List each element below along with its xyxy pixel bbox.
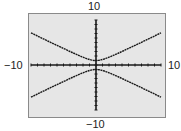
calculator-screen bbox=[0, 0, 181, 131]
